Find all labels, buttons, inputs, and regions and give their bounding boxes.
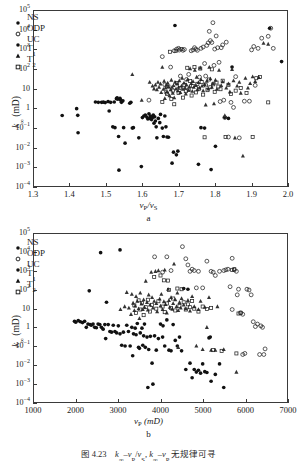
data-point-odp	[214, 34, 218, 38]
data-point-odp	[186, 263, 190, 267]
data-point-odp	[222, 98, 226, 102]
data-point-odp	[230, 308, 234, 312]
data-point-odp	[165, 255, 169, 259]
data-point-odp	[235, 293, 239, 297]
data-point-t1	[159, 292, 163, 296]
data-point-odp	[230, 256, 234, 260]
legend-item-odp: ODP	[14, 23, 45, 33]
figure-caption: 图 4.23 k∞–vP/vS, k∞–vP 无规律可寻	[0, 447, 297, 461]
filled-circle-icon	[14, 13, 22, 21]
data-point-t2	[153, 275, 156, 278]
data-point-t1	[201, 347, 205, 351]
x-tick-label: 3000	[101, 405, 135, 415]
x-tick	[106, 183, 107, 187]
data-point-odp	[251, 320, 255, 324]
data-point-t1	[194, 344, 198, 348]
data-point-t1	[228, 90, 232, 94]
data-point-t1	[130, 292, 134, 296]
data-point-t1	[156, 80, 160, 84]
x-tick-label: 1.9	[235, 189, 269, 199]
data-point-uc	[173, 24, 177, 28]
data-point-odp	[242, 99, 246, 103]
y-tick-label: 105	[2, 229, 30, 237]
panel-letter-a: a	[0, 213, 297, 223]
y-axis-title-a: k∞ (mD)	[11, 96, 23, 128]
y-axis-title-b: k∞ (mD)	[11, 315, 23, 347]
data-point-odp	[160, 55, 164, 59]
data-point-ns	[161, 335, 165, 339]
y-tick-label: 10	[2, 305, 30, 313]
data-point-t2	[159, 274, 162, 277]
data-point-t2	[155, 307, 158, 310]
data-point-odp	[266, 34, 270, 38]
data-point-odp	[252, 45, 256, 49]
filled-circle-icon	[14, 238, 22, 246]
data-point-t2	[194, 91, 197, 94]
x-tick	[142, 183, 143, 187]
y-tick-label: 10−4	[2, 399, 30, 407]
data-point-ns	[180, 349, 184, 353]
data-point-t2	[245, 92, 248, 95]
data-point-ns	[170, 161, 174, 165]
data-point-ns	[128, 344, 132, 348]
scatter-points-b	[34, 234, 287, 402]
data-point-odp	[234, 75, 238, 79]
filled-triangle-icon	[14, 46, 22, 54]
data-point-odp	[187, 72, 191, 76]
data-point-t2	[142, 314, 145, 317]
data-point-t1	[233, 136, 237, 140]
data-point-odp	[184, 257, 188, 261]
data-point-t1	[262, 41, 266, 45]
data-point-odp	[217, 60, 221, 64]
data-point-ns	[218, 362, 222, 366]
data-point-ns	[171, 323, 175, 327]
data-point-t1	[266, 42, 270, 46]
data-point-ns	[158, 121, 162, 125]
x-tick-label: 4000	[144, 405, 178, 415]
y-tick	[33, 346, 37, 347]
data-point-ns	[154, 348, 158, 352]
x-tick	[215, 183, 216, 187]
panel-b: 1000200030004000500060007000 10−410−310−…	[0, 225, 297, 440]
data-point-uc	[268, 26, 272, 30]
data-point-ns	[142, 334, 146, 338]
y-tick-label: 10−4	[2, 183, 30, 191]
data-point-t1	[190, 89, 194, 93]
data-point-ns	[205, 371, 209, 375]
x-tick	[288, 399, 289, 403]
data-point-ns	[188, 361, 192, 365]
data-point-ns	[201, 362, 205, 366]
data-point-t1	[175, 291, 179, 295]
data-point-t1	[172, 262, 176, 266]
data-point-odp	[205, 259, 209, 263]
data-point-ns	[165, 318, 169, 322]
data-point-t2	[203, 136, 206, 139]
data-point-t1	[163, 96, 167, 100]
data-point-ns	[115, 331, 119, 335]
data-point-ns	[104, 337, 108, 341]
data-point-odp	[207, 29, 211, 33]
x-tick-label: 7000	[271, 405, 297, 415]
data-point-t2	[239, 86, 242, 89]
data-point-ns	[111, 323, 115, 327]
data-point-odp	[201, 286, 205, 290]
data-point-t1	[147, 293, 151, 297]
data-point-ns	[138, 331, 142, 335]
data-point-ns	[145, 335, 149, 339]
legend-item-ns: NS	[14, 237, 45, 247]
x-tick-label: 5000	[186, 405, 220, 415]
data-point-t1	[223, 113, 227, 117]
open-square-icon	[14, 57, 22, 65]
data-point-ns	[112, 100, 116, 104]
data-point-uc	[161, 324, 165, 328]
data-point-ns	[140, 165, 144, 169]
data-point-ns	[167, 135, 171, 139]
y-tick	[33, 233, 37, 234]
data-point-t1	[217, 68, 221, 72]
data-point-t1	[166, 81, 170, 85]
data-point-odp	[229, 100, 233, 104]
x-tick	[288, 183, 289, 187]
y-tick-label: 10−2	[2, 361, 30, 369]
data-point-uc	[208, 335, 212, 339]
data-point-ns	[83, 319, 87, 323]
